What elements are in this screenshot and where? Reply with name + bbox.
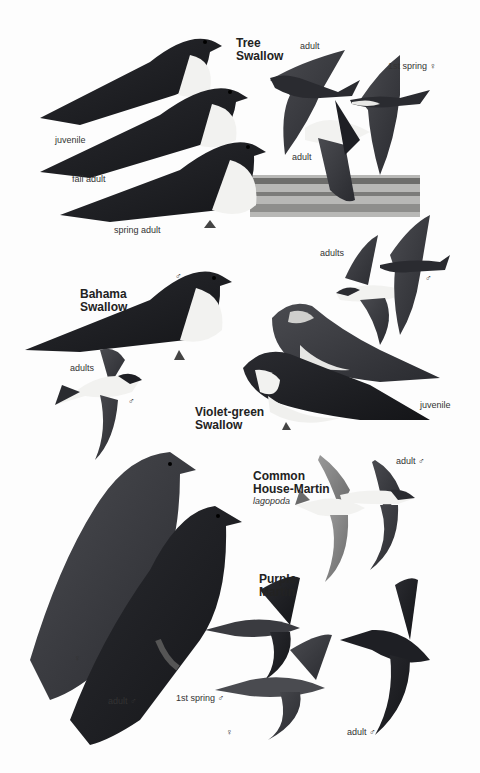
label-1st-spring-female: 1st spring ♀ [388,62,436,71]
swallow-illustrations [0,0,480,773]
label-male: ♂ [383,318,390,327]
label-juvenile: juvenile [420,401,451,410]
tree-swallow-title: Tree Swallow [236,37,283,62]
violet-green-swallow-title: Violet-green Swallow [195,406,264,431]
bahama-swallow-title: Bahama Swallow [80,288,127,313]
label-female: ♀ [226,728,233,737]
label-male: ♂ [425,274,432,283]
label-adult: adult [292,153,312,162]
label-male: ♂ [175,272,182,281]
tree-swallow-1st-spring-female [350,55,430,175]
label-female: ♀ [74,654,81,663]
label-male: ♂ [128,397,135,406]
purple-martin-adult-male-flying [340,578,430,735]
label-adults: adults [320,249,344,258]
label-fall-adult: fall adult [72,175,106,184]
label-adult-male: adult ♂ [347,728,376,737]
bahama-swallow-perched [25,271,232,360]
label-adults: adults [70,364,94,373]
label-adult: adult [300,42,320,51]
label-spring-adult: spring adult [114,226,161,235]
common-house-martin-title: Common House-Martinlagopoda [253,470,330,507]
common-house-martin-name: Common House-Martin [253,469,330,496]
purple-martin-title: Purple Martin [259,573,296,598]
label-juvenile: juvenile [55,136,86,145]
purple-martin-female-flying [215,635,332,740]
label-1st-spring-male: 1st spring ♂ [176,694,224,703]
violet-green-swallow-flying-adults [336,215,450,345]
label-adult-male: adult ♂ [396,457,425,466]
subspecies-label: lagopoda [253,497,330,506]
field-guide-plate: Tree Swallow Bahama Swallow Violet-green… [0,0,480,773]
label-adult-male: adult ♂ [108,697,137,706]
